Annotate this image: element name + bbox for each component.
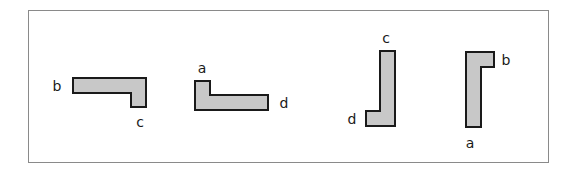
l-shape-1: [73, 78, 146, 107]
l-shape-4: [466, 52, 494, 127]
shape-3-label-c: c: [382, 31, 390, 45]
shape-4-label-a: a: [466, 136, 475, 150]
shape-4-label-b: b: [502, 53, 511, 67]
shape-1-label-b: b: [53, 79, 62, 93]
shape-1-label-c: c: [136, 115, 144, 129]
shape-2-label-a: a: [198, 61, 207, 75]
shape-3-label-d: d: [348, 112, 357, 126]
shape-2-label-d: d: [280, 96, 289, 110]
l-shape-2: [195, 81, 268, 110]
shapes-canvas: [0, 0, 579, 173]
l-shape-3: [366, 51, 395, 126]
